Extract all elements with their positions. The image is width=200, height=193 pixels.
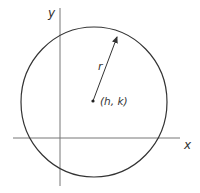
center-label: (h, k) — [100, 95, 128, 107]
y-axis-label: y — [47, 6, 56, 20]
radius-label: r — [98, 60, 104, 73]
x-axis-label: x — [183, 138, 192, 152]
radius-arrow — [93, 37, 117, 101]
center-point — [91, 99, 94, 102]
circle-diagram: y x r (h, k) — [0, 0, 200, 193]
